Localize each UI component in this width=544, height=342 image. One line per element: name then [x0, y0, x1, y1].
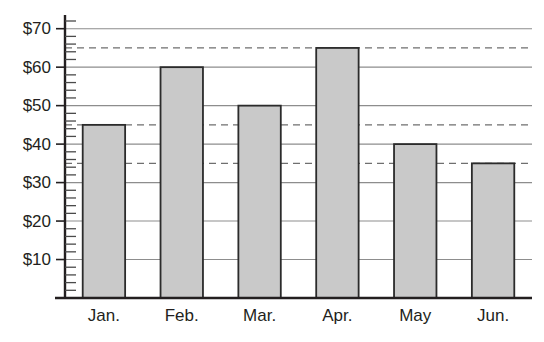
x-axis-label-jun: Jun. [477, 306, 509, 325]
chart-canvas: $10$20$30$40$50$60$70 Jan.Feb.Mar.Apr.Ma… [0, 0, 544, 342]
x-axis-label-may: May [399, 306, 432, 325]
bar-may [394, 144, 436, 298]
y-axis-label-10: $10 [23, 250, 51, 269]
x-axis-label-feb: Feb. [165, 306, 199, 325]
y-axis-label-60: $60 [23, 58, 51, 77]
y-axis-label-70: $70 [23, 19, 51, 38]
bar-apr [316, 48, 358, 298]
bar-feb [161, 67, 203, 298]
y-axis-label-50: $50 [23, 96, 51, 115]
y-axis-label-40: $40 [23, 135, 51, 154]
bar-jun [472, 163, 514, 298]
y-axis-label-30: $30 [23, 173, 51, 192]
y-axis-label-20: $20 [23, 212, 51, 231]
bar-mar [238, 106, 280, 298]
bar-jan [83, 125, 125, 298]
x-axis-label-mar: Mar. [243, 306, 276, 325]
x-axis-label-jan: Jan. [88, 306, 120, 325]
x-axis-label-apr: Apr. [322, 306, 352, 325]
bar-chart: $10$20$30$40$50$60$70 Jan.Feb.Mar.Apr.Ma… [0, 0, 544, 342]
